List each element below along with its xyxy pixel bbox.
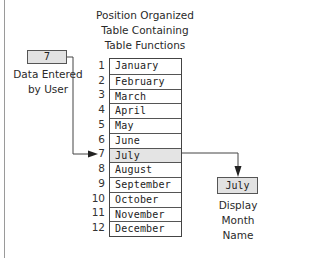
label-line: Month Name — [205, 213, 271, 243]
label-line: Display — [205, 198, 271, 213]
row-to-output-arrow — [182, 153, 242, 177]
display-output-box: July — [217, 177, 258, 194]
input-to-row-arrow — [67, 57, 98, 158]
display-output-label: Display Month Name — [205, 198, 271, 243]
